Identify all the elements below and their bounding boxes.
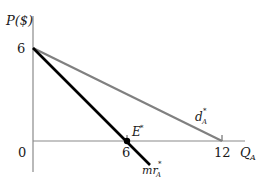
x-tick-6: 6: [122, 145, 130, 160]
demand-line: [33, 48, 222, 141]
y-axis-label-p: P($): [5, 13, 33, 28]
equilibrium-point: [124, 138, 130, 144]
demand-label-sup: *: [203, 107, 207, 115]
x-tick-12: 12: [214, 145, 231, 160]
equilibrium-label-sup: *: [140, 124, 144, 132]
marginal-revenue-label-sup: *: [158, 160, 162, 168]
origin-label: 0: [18, 145, 26, 160]
marginal-revenue-label-sub: A: [155, 171, 161, 179]
x-axis-label-sub: A: [249, 153, 256, 162]
y-tick-6: 6: [17, 41, 25, 56]
marginal-revenue-line: [33, 48, 150, 165]
demand-label-sub: A: [201, 118, 207, 126]
chart: P($) 6 0 6 12 Q A d A * E * mr A *: [0, 0, 270, 182]
